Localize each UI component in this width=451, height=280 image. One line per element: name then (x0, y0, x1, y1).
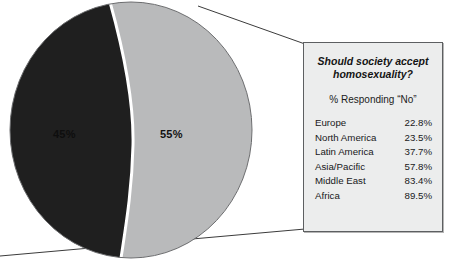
pie-slices-group (0, 2, 252, 258)
row-value: 83.4% (396, 174, 432, 189)
callout-title-line-2: homosexuality? (333, 68, 413, 80)
row-region: North America (315, 131, 396, 146)
row-region: Asia/Pacific (315, 160, 396, 175)
table-body: Europe 22.8% North America 23.5% Latin A… (315, 116, 432, 204)
row-value: 37.7% (396, 145, 432, 160)
figure-canvas: 45% 55% Should society accept homosexual… (0, 0, 451, 280)
callout-title-line-1: Should society accept (318, 55, 429, 67)
row-region: Europe (315, 116, 396, 131)
row-value: 22.8% (396, 116, 432, 131)
row-region: Middle East (315, 174, 396, 189)
callout-box: Should society accept homosexuality? % R… (303, 42, 443, 232)
table-row: North America 23.5% (315, 131, 432, 146)
callout-subtitle: % Responding “No” (313, 94, 433, 105)
row-value: 23.5% (396, 131, 432, 146)
table-row: Africa 89.5% (315, 189, 432, 204)
pie-label-55: 55% (160, 128, 183, 140)
callout-title: Should society accept homosexuality? (313, 55, 433, 81)
table-row: Asia/Pacific 57.8% (315, 160, 432, 175)
row-region: Latin America (315, 145, 396, 160)
table-row: Latin America 37.7% (315, 145, 432, 160)
table-row: Middle East 83.4% (315, 174, 432, 189)
row-region: Africa (315, 189, 396, 204)
row-value: 57.8% (396, 160, 432, 175)
table-row: Europe 22.8% (315, 116, 432, 131)
row-value: 89.5% (396, 189, 432, 204)
pie-label-45: 45% (53, 128, 76, 140)
region-percent-table: Europe 22.8% North America 23.5% Latin A… (315, 116, 432, 204)
